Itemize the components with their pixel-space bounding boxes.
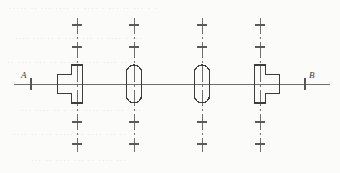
section-axis-label-b: B <box>309 71 315 80</box>
drawing-canvas: · · ··· ·· ··· · ···· ·· ···· ··· ·· ···… <box>0 0 340 173</box>
section-axis-label-a: A <box>21 71 27 80</box>
schematic-svg <box>0 0 340 173</box>
vertical-centerline-group <box>77 18 260 152</box>
section-axis-group <box>14 78 330 90</box>
